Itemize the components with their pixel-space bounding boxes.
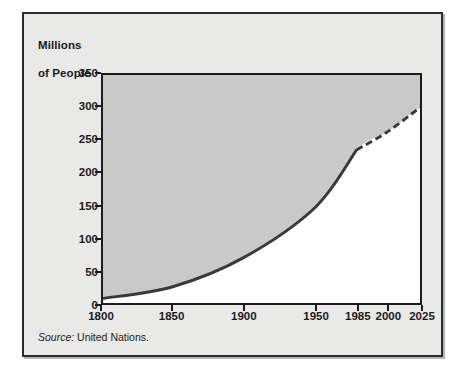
source-label: Source: (38, 331, 74, 343)
source-value: United Nations. (77, 331, 149, 343)
y-axis-tick-label: 250 (64, 134, 98, 144)
x-axis-tick-label: 2000 (375, 310, 401, 322)
x-axis-tick-label: 2025 (409, 310, 435, 322)
source-note: Source: United Nations. (38, 331, 149, 343)
y-axis-tick-label: 200 (64, 167, 98, 177)
chart-panel: Millions of People 050100150200250300350… (22, 12, 443, 357)
chart-plot-svg (103, 75, 420, 303)
area-fill-group (103, 75, 420, 298)
y-axis-tick-label: 150 (64, 201, 98, 211)
area-fill-above-curve (103, 75, 420, 298)
x-axis-tick-label: 1800 (88, 310, 114, 322)
x-axis-tick-label: 1900 (231, 310, 257, 322)
y-axis-tick-labels: 050100150200250300350 (60, 14, 98, 359)
x-axis-tick-mark (100, 305, 102, 311)
figure-root: Millions of People 050100150200250300350… (0, 0, 470, 369)
x-axis-tick-mark (421, 305, 423, 311)
y-axis-tick-label: 0 (64, 300, 98, 310)
y-axis-tick-label: 50 (64, 267, 98, 277)
x-axis-tick-mark (357, 305, 359, 311)
y-axis-tick-label: 300 (64, 101, 98, 111)
x-axis-tick-label: 1850 (159, 310, 185, 322)
x-axis-tick-label: 1950 (303, 310, 329, 322)
x-axis-tick-label: 1985 (345, 310, 371, 322)
y-axis-tick-label: 350 (64, 68, 98, 78)
y-axis-tick-label: 100 (64, 234, 98, 244)
x-axis-tick-mark (387, 305, 389, 311)
plot-area (101, 73, 422, 305)
x-axis-tick-mark (243, 305, 245, 311)
x-axis-tick-labels: 1800185019001950198520002025 (24, 310, 445, 330)
x-axis-tick-mark (171, 305, 173, 311)
x-axis-tick-mark (315, 305, 317, 311)
